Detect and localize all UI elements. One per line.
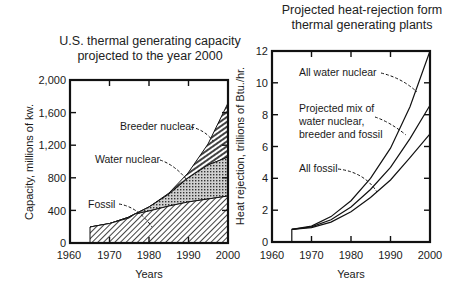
left-ytick-0: 0 xyxy=(60,237,66,249)
left-ytick-1200: 1,200 xyxy=(38,139,66,151)
label-all-fossil: All fossil xyxy=(299,162,338,174)
right-y-axis-label: Heat rejection, trillions of Btu./hr. xyxy=(234,67,246,225)
left-y-tick-labels: 2,000 1,600 1,200 800 400 0 xyxy=(38,74,66,249)
left-ytick-2000: 2,000 xyxy=(38,74,66,86)
label-fossil: Fossil xyxy=(88,198,115,210)
right-ticks xyxy=(272,51,430,242)
left-x-axis-label: Years xyxy=(135,268,163,280)
label-mix-line2: water nuclear, xyxy=(298,115,364,127)
right-xtick-1980: 1980 xyxy=(339,249,363,261)
charts-canvas: 2,000 1,600 1,200 800 400 0 1960 1970 19… xyxy=(0,0,466,294)
left-chart: 2,000 1,600 1,200 800 400 0 1960 1970 19… xyxy=(23,74,240,280)
left-ytick-1600: 1,600 xyxy=(38,107,66,119)
left-xtick-2000: 2000 xyxy=(216,249,240,261)
right-chart: 12 10 8 6 4 2 0 1960 1970 1980 1990 2000… xyxy=(234,45,442,280)
right-xtick-1970: 1970 xyxy=(299,249,323,261)
all-water-leader-line xyxy=(381,73,417,92)
left-ytick-800: 800 xyxy=(48,172,66,184)
water-leader-line xyxy=(160,160,187,180)
right-ytick-10: 10 xyxy=(256,77,268,89)
right-xtick-1960: 1960 xyxy=(260,249,284,261)
label-breeder-nuclear: Breeder nuclear xyxy=(120,120,195,132)
right-xtick-2000: 2000 xyxy=(418,249,442,261)
right-x-axis-label: Years xyxy=(337,268,365,280)
left-x-tick-labels: 1960 1970 1980 1990 2000 xyxy=(57,249,240,261)
label-all-water-nuclear: All water nuclear xyxy=(299,66,377,78)
left-xtick-1970: 1970 xyxy=(97,249,121,261)
right-ytick-8: 8 xyxy=(262,109,268,121)
right-ytick-4: 4 xyxy=(262,172,268,184)
right-ytick-6: 6 xyxy=(262,141,268,153)
right-ytick-2: 2 xyxy=(262,204,268,216)
right-axes-frame xyxy=(272,51,430,242)
right-xtick-1990: 1990 xyxy=(378,249,402,261)
right-x-tick-labels: 1960 1970 1980 1990 2000 xyxy=(260,249,442,261)
label-water-nuclear: Water nuclear xyxy=(95,153,160,165)
left-ytick-400: 400 xyxy=(48,205,66,217)
right-y-tick-labels: 12 10 8 6 4 2 0 xyxy=(256,45,268,248)
label-mix-line3: breeder and fossil xyxy=(299,128,382,140)
left-xtick-1960: 1960 xyxy=(57,249,81,261)
label-mix-line1: Projected mix of xyxy=(299,102,374,114)
left-xtick-1990: 1990 xyxy=(176,249,200,261)
right-ytick-0: 0 xyxy=(262,236,268,248)
all-fossil-curve xyxy=(292,134,430,229)
left-y-axis-label: Capacity, millions of kw. xyxy=(23,104,35,220)
right-ytick-12: 12 xyxy=(256,45,268,57)
left-xtick-1980: 1980 xyxy=(137,249,161,261)
